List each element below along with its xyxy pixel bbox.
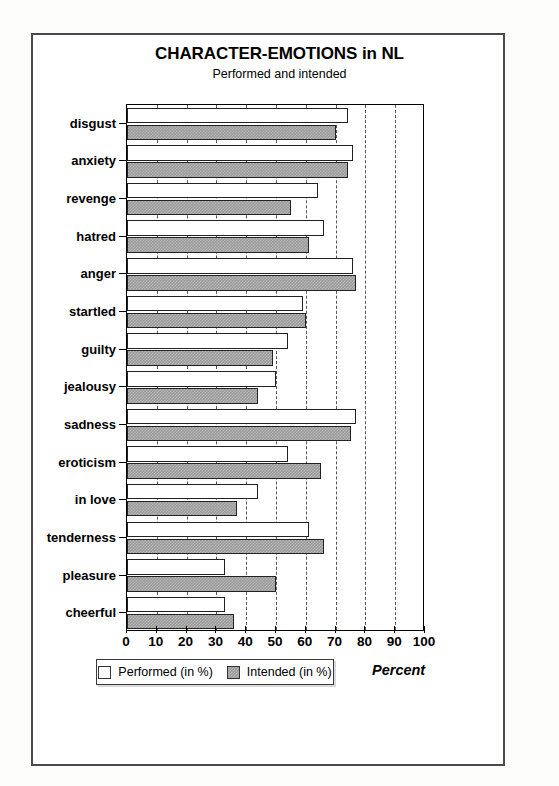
x-tick-label-40: 40 — [238, 634, 253, 649]
x-tick — [126, 626, 127, 633]
bar-performed — [127, 333, 288, 349]
bar-group — [127, 444, 423, 482]
legend-entry-performed: Performed (in %) — [98, 665, 212, 679]
category-tick — [119, 160, 126, 161]
bar-group — [127, 519, 423, 557]
x-tick — [424, 626, 425, 633]
bar-group — [127, 557, 423, 595]
bar-performed — [127, 409, 356, 425]
bar-performed — [127, 597, 225, 613]
bar-performed — [127, 522, 309, 538]
bar-group — [127, 256, 423, 294]
category-label-revenge: revenge — [66, 191, 116, 206]
category-tick — [119, 386, 126, 387]
x-tick — [335, 626, 336, 633]
x-tick — [156, 626, 157, 633]
value-axis: 0102030405060708090100 — [126, 634, 424, 656]
category-label-pleasure: pleasure — [63, 567, 116, 582]
category-label-tenderness: tenderness — [47, 529, 116, 544]
bar-performed — [127, 258, 353, 274]
bar-group — [127, 331, 423, 369]
bar-performed — [127, 296, 303, 312]
bar-performed — [127, 220, 324, 236]
x-tick — [245, 626, 246, 633]
category-label-guilty: guilty — [81, 341, 116, 356]
bar-group — [127, 143, 423, 181]
x-tick-label-90: 90 — [387, 634, 402, 649]
x-tick — [186, 626, 187, 633]
bar-performed — [127, 145, 353, 161]
category-tick — [119, 424, 126, 425]
category-tick — [119, 123, 126, 124]
x-tick-label-100: 100 — [413, 634, 436, 649]
bar-group — [127, 180, 423, 218]
category-label-disgust: disgust — [70, 115, 116, 130]
legend-swatch-intended-icon — [227, 666, 240, 679]
category-label-in-love: in love — [75, 492, 116, 507]
x-tick — [275, 626, 276, 633]
bar-performed — [127, 183, 318, 199]
x-tick — [305, 626, 306, 633]
category-label-anger: anger — [81, 266, 116, 281]
x-tick-label-10: 10 — [148, 634, 163, 649]
chart-title: CHARACTER-EMOTIONS in NL — [0, 44, 559, 64]
x-tick — [364, 626, 365, 633]
legend-entry-intended: Intended (in %) — [227, 665, 332, 679]
x-tick-label-70: 70 — [327, 634, 342, 649]
category-label-cheerful: cheerful — [65, 605, 116, 620]
plot-area — [126, 104, 424, 631]
bar-performed — [127, 371, 276, 387]
bar-intended — [127, 614, 234, 630]
x-tick — [394, 626, 395, 633]
category-tick — [119, 236, 126, 237]
bar-performed — [127, 484, 258, 500]
bar-intended — [127, 237, 309, 253]
bar-group — [127, 105, 423, 143]
x-tick-label-50: 50 — [267, 634, 282, 649]
category-tick — [119, 349, 126, 350]
category-label-jealousy: jealousy — [64, 379, 116, 394]
plot-wrapper — [126, 104, 424, 631]
bar-group — [127, 481, 423, 519]
bar-performed — [127, 559, 225, 575]
category-tick — [119, 311, 126, 312]
chart-legend: Performed (in %) Intended (in %) — [96, 659, 334, 685]
category-tick — [119, 537, 126, 538]
category-tick — [119, 499, 126, 500]
bar-group — [127, 406, 423, 444]
bar-intended — [127, 162, 348, 178]
bar-performed — [127, 446, 288, 462]
axis-caption: Percent — [372, 662, 425, 678]
bar-intended — [127, 125, 336, 141]
legend-label-intended: Intended (in %) — [247, 665, 332, 679]
x-tick-label-60: 60 — [297, 634, 312, 649]
bar-intended — [127, 463, 321, 479]
x-tick — [215, 626, 216, 633]
category-label-hatred: hatred — [76, 228, 116, 243]
bar-group — [127, 218, 423, 256]
category-label-eroticism: eroticism — [58, 454, 116, 469]
x-tick-label-80: 80 — [357, 634, 372, 649]
bar-group — [127, 293, 423, 331]
category-tick — [119, 273, 126, 274]
bar-intended — [127, 501, 237, 517]
x-tick-label-30: 30 — [208, 634, 223, 649]
category-label-anxiety: anxiety — [71, 153, 116, 168]
category-tick — [119, 612, 126, 613]
category-label-startled: startled — [69, 304, 116, 319]
category-axis: disgustanxietyrevengehatredangerstartled… — [31, 104, 126, 631]
bar-intended — [127, 313, 306, 329]
bar-performed — [127, 108, 348, 124]
legend-label-performed: Performed (in %) — [118, 665, 212, 679]
bar-intended — [127, 200, 291, 216]
bars-layer — [127, 105, 423, 630]
bar-intended — [127, 426, 351, 442]
bar-intended — [127, 539, 324, 555]
x-tick-label-0: 0 — [122, 634, 130, 649]
bar-intended — [127, 388, 258, 404]
bar-intended — [127, 275, 356, 291]
category-tick — [119, 575, 126, 576]
category-tick — [119, 198, 126, 199]
category-label-sadness: sadness — [64, 416, 116, 431]
bar-intended — [127, 576, 276, 592]
